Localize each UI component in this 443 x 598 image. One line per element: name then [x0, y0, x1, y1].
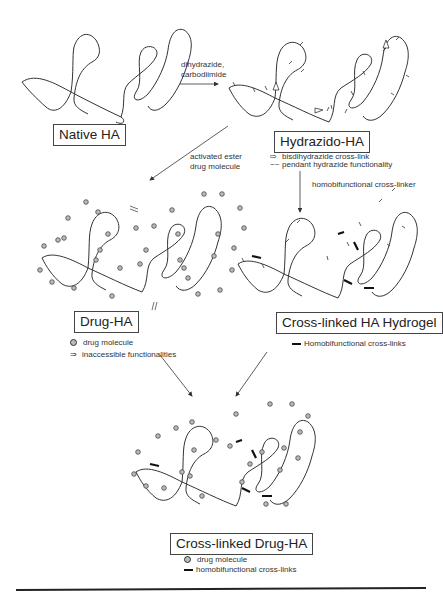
legend-hydrogel: Homobifunctional cross-links [292, 338, 406, 349]
drug-molecule-icon [70, 339, 77, 346]
label-hydrazido-ha: Hydrazido-HA [274, 131, 370, 153]
squiggle-icon: ~~ [270, 159, 282, 170]
label-drug-ha: Drug-HA [74, 311, 139, 333]
legend-crosslinked-drug-ha: drug molecule homobifunctional cross-lin… [184, 554, 297, 575]
label-crosslinked-drug-ha: Cross-linked Drug-HA [170, 533, 313, 555]
legend-drug-ha: drug molecule ⇒inaccessible functionalit… [70, 337, 176, 360]
arrow-step4a [160, 355, 192, 396]
crosslink-icon [184, 569, 193, 571]
arrow-step4b [236, 352, 267, 396]
legend-hydrazido: ⇨bisdihydrazide cross-link ~~pendant hyd… [270, 151, 392, 170]
crosslinked-drug-ha-coil [132, 402, 316, 507]
reaction-step3-label: homobifunctional cross-linker [312, 180, 416, 190]
hydrogel-coil [238, 188, 417, 298]
drug-ha-coil [38, 192, 247, 310]
hydrazido-ha-coil [229, 36, 409, 122]
double-arrow-icon: ⇒ [70, 349, 82, 360]
native-ha-coil [22, 29, 191, 123]
drug-molecule-icon [184, 556, 191, 563]
reaction-step2-label: activated ester drug molecule [190, 152, 242, 172]
label-hydrogel: Cross-linked HA Hydrogel [276, 312, 443, 334]
reaction-step1-label: dihydrazide, carbodiimide [181, 60, 226, 80]
crosslink-icon [292, 343, 301, 345]
label-native-ha: Native HA [53, 124, 126, 146]
